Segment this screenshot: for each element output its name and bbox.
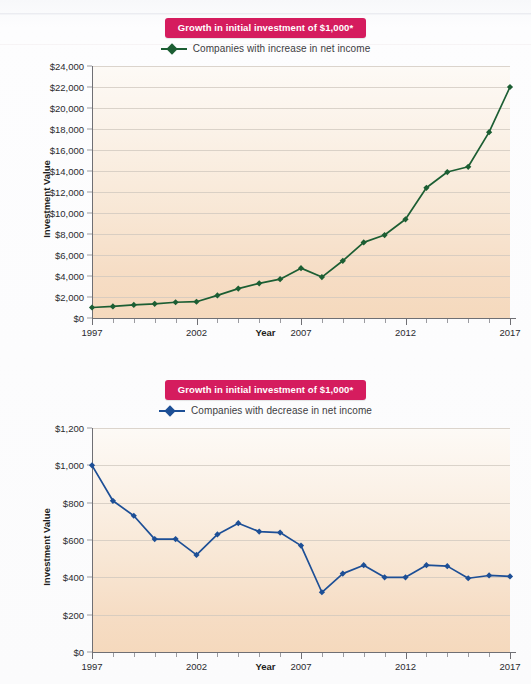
page-rule-top-secondary	[0, 14, 531, 15]
figure-page: Growth in initial investment of $1,000* …	[0, 0, 531, 684]
data-point-marker	[131, 302, 137, 308]
data-point-marker	[256, 529, 262, 535]
legend-label-increase: Companies with increase in net income	[193, 43, 371, 54]
series-line	[92, 87, 510, 308]
data-point-marker	[214, 292, 220, 298]
data-point-marker	[235, 520, 241, 526]
data-point-marker	[235, 286, 241, 292]
data-point-marker	[173, 299, 179, 305]
legend-marker-increase-icon	[161, 44, 187, 54]
data-point-marker	[152, 301, 158, 307]
chart-1-legend: Companies with increase in net income	[0, 43, 531, 54]
chart-increase-net-income: Growth in initial investment of $1,000* …	[0, 18, 531, 338]
data-point-marker	[507, 573, 513, 579]
chart-2-legend: Companies with decrease in net income	[0, 405, 531, 416]
data-point-marker	[89, 304, 95, 310]
data-point-marker	[486, 572, 492, 578]
plot1-series	[0, 60, 531, 338]
legend-label-decrease: Companies with decrease in net income	[191, 405, 372, 416]
data-point-marker	[256, 280, 262, 286]
chart-2-title-banner: Growth in initial investment of $1,000*	[165, 380, 366, 400]
data-point-marker	[298, 265, 304, 271]
data-point-marker	[507, 84, 513, 90]
series-line	[92, 465, 510, 592]
chart-decrease-net-income: Growth in initial investment of $1,000* …	[0, 380, 531, 672]
chart-1-plot: Investment Value Year $0$2,000$4,000$6,0…	[0, 60, 531, 338]
chart-2-plot: Investment Value Year $0$200$400$600$800…	[0, 422, 531, 672]
chart-1-title-banner: Growth in initial investment of $1,000*	[165, 18, 366, 38]
plot2-series	[0, 422, 531, 672]
data-point-marker	[193, 299, 199, 305]
legend-marker-decrease-icon	[159, 406, 185, 416]
data-point-marker	[277, 276, 283, 282]
chart-1-banner-row: Growth in initial investment of $1,000*	[0, 18, 531, 38]
data-point-marker	[110, 303, 116, 309]
chart-2-banner-row: Growth in initial investment of $1,000*	[0, 380, 531, 400]
